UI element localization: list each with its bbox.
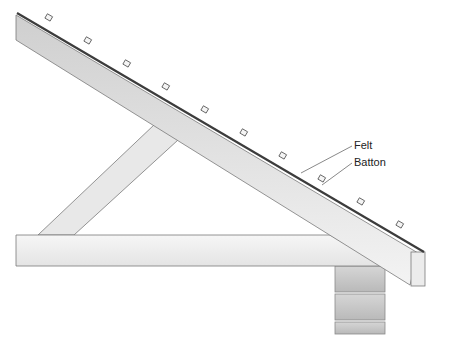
fascia bbox=[411, 252, 425, 286]
roof-diagram: Felt Batton bbox=[0, 0, 449, 344]
ceiling-joist bbox=[16, 235, 384, 266]
batton-label: Batton bbox=[354, 156, 386, 168]
batton-leader bbox=[322, 163, 352, 185]
strut bbox=[38, 124, 178, 235]
wall bbox=[335, 266, 385, 334]
roof-drawing bbox=[0, 0, 449, 344]
felt-label: Felt bbox=[354, 139, 372, 151]
